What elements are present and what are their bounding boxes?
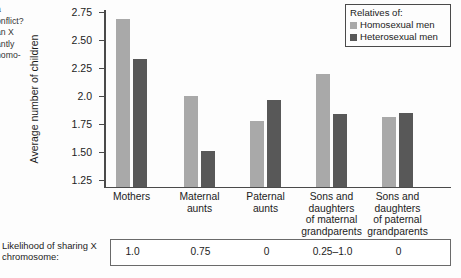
y-axis-tick-label: 2.50: [72, 34, 92, 46]
figure: aonflict?an Xantlyhomo- 1.251.501.752.02…: [0, 0, 461, 278]
bar: [333, 114, 347, 187]
y-axis-tick: 1.50: [99, 152, 104, 153]
legend-item: Heterosexual men: [350, 31, 447, 43]
bar: [250, 121, 264, 187]
legend-swatch-icon: [350, 22, 357, 29]
legend-title: Relatives of:: [350, 7, 447, 18]
y-axis-tick: 1.25: [99, 180, 104, 181]
chart-legend: Relatives of: Homosexual menHeterosexual…: [345, 4, 451, 47]
category-label-line: daughters: [355, 203, 441, 215]
bar: [382, 117, 396, 187]
category-label-line: grandparents: [355, 226, 441, 238]
y-axis-tick: 2.25: [99, 68, 104, 69]
y-axis-tick-label: 1.75: [72, 118, 92, 130]
margin-body-text: aonflict?an Xantlyhomo-: [0, 4, 48, 62]
margin-text-line: onflict?: [0, 16, 48, 28]
bar: [116, 19, 130, 187]
category-label-line: of paternal: [355, 214, 441, 226]
y-axis-tick-label: 2.25: [72, 62, 92, 74]
y-axis-tick-label: 1.25: [72, 174, 92, 186]
legend-item: Homosexual men: [350, 19, 447, 31]
margin-text-line: homo-: [0, 50, 48, 62]
legend-item-label: Heterosexual men: [360, 31, 438, 43]
y-axis-tick: 2.75: [99, 12, 104, 13]
y-axis-tick-label: 2.0: [77, 90, 92, 102]
bar: [184, 96, 198, 187]
legend-items: Homosexual menHeterosexual men: [350, 19, 447, 43]
margin-text-line: antly: [0, 39, 48, 51]
legend-swatch-icon: [350, 34, 357, 41]
margin-text-line: an X: [0, 27, 48, 39]
category-label-line: Sons and: [355, 191, 441, 203]
x-axis-line: [104, 187, 451, 188]
bar: [267, 100, 281, 187]
y-axis-tick: 1.75: [99, 124, 104, 125]
bar: [399, 113, 413, 187]
bar: [201, 151, 215, 187]
y-axis-label: Average number of children: [28, 35, 40, 164]
y-axis-tick-label: 2.75: [72, 6, 92, 18]
y-axis-tick-label: 1.50: [72, 146, 92, 158]
likelihood-cell: 0: [356, 246, 442, 257]
likelihood-table: 1.00.7500.25–1.00: [110, 239, 451, 266]
y-axis-tick: 2.50: [99, 40, 104, 41]
margin-text-line: a: [0, 4, 48, 16]
y-axis-line: [104, 10, 106, 188]
bar: [133, 59, 147, 187]
y-axis-tick: 2.0: [99, 96, 104, 97]
x-axis-category-label: Sons anddaughtersof paternalgrandparents: [355, 191, 441, 237]
bar: [316, 74, 330, 187]
legend-item-label: Homosexual men: [360, 19, 435, 31]
